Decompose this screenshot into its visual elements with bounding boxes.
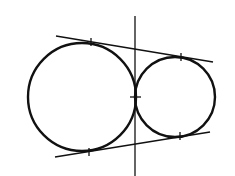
bottom-external-tangent-line [55,132,210,157]
small-circle [135,57,215,137]
diagram-canvas [0,0,235,176]
large-circle [28,43,136,151]
tangent-circles-diagram [0,0,235,176]
